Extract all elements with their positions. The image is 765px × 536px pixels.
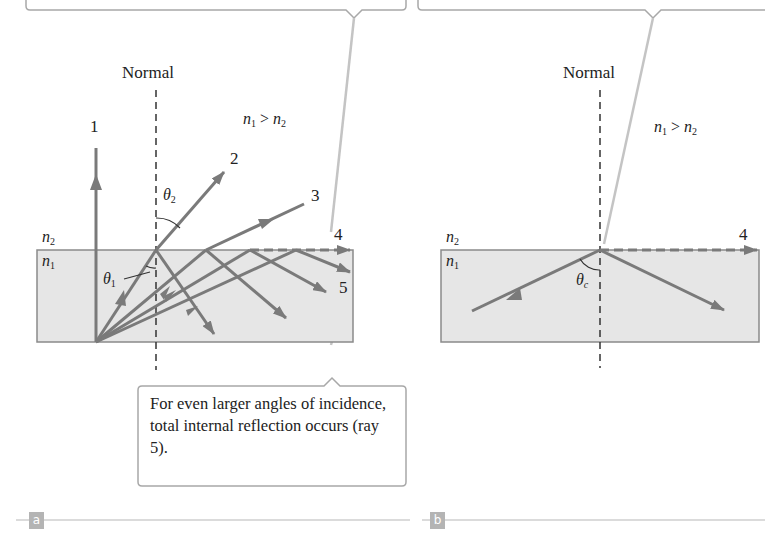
medium-n2-label-a: n2 <box>42 228 55 247</box>
normal-label-b: Normal <box>563 63 615 82</box>
ray-label-1: 1 <box>90 117 99 136</box>
panel-b: Normal 4 n1 > n2 n2 n1 θc <box>422 63 765 520</box>
top-callout-b <box>418 0 765 18</box>
leader-line-a <box>331 18 354 232</box>
ray-label-3: 3 <box>311 186 320 205</box>
index-relation-a: n1 > n2 <box>243 110 286 129</box>
index-relation-b: n1 > n2 <box>654 118 697 137</box>
normal-label-a: Normal <box>122 63 174 82</box>
theta2-label: θ2 <box>163 186 176 205</box>
top-callout-a <box>26 0 406 18</box>
ray-label-4: 4 <box>334 225 343 244</box>
ray-3-refracted <box>206 204 304 250</box>
medium-n2-label-b: n2 <box>446 228 459 247</box>
callout-text-tir: For even larger angles of incidence, tot… <box>150 393 400 459</box>
panel-tag-a: a <box>29 512 44 529</box>
ray-label-5: 5 <box>339 278 348 297</box>
ray-2-refracted <box>156 172 224 250</box>
leader-line-b <box>604 18 653 244</box>
ray-label-2: 2 <box>230 149 239 168</box>
panel-tag-b: b <box>430 512 445 529</box>
ray-label-4-b: 4 <box>739 225 748 244</box>
